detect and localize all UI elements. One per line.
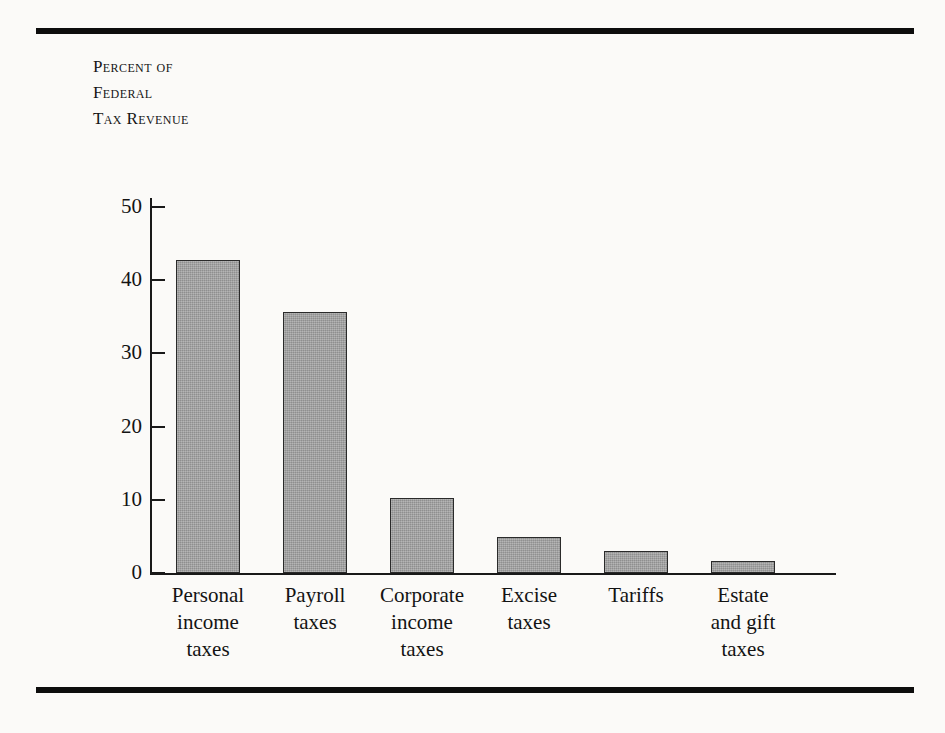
bar-1 xyxy=(283,312,347,573)
y-tick-label-30: 30 xyxy=(100,342,142,363)
y-tick-0 xyxy=(152,572,165,574)
y-tick-40 xyxy=(152,279,165,281)
x-label-line: Estate xyxy=(683,582,803,609)
y-tick-label-50: 50 xyxy=(100,196,142,217)
x-label-line: Personal xyxy=(148,582,268,609)
x-label-line: Excise xyxy=(469,582,589,609)
y-tick-label-40: 40 xyxy=(100,269,142,290)
x-label-line: taxes xyxy=(683,636,803,663)
bar-2 xyxy=(390,498,454,573)
y-tick-20 xyxy=(152,426,165,428)
x-label-line: Tariffs xyxy=(576,582,696,609)
x-label-line: Payroll xyxy=(255,582,375,609)
x-label-1: Payrolltaxes xyxy=(255,582,375,636)
x-label-line: Corporate xyxy=(362,582,482,609)
y-tick-50 xyxy=(152,206,165,208)
x-label-line: taxes xyxy=(148,636,268,663)
y-tick-30 xyxy=(152,352,165,354)
bar-0 xyxy=(176,260,240,573)
bar-4 xyxy=(604,551,668,573)
x-label-line: taxes xyxy=(469,609,589,636)
y-axis-line xyxy=(150,198,152,575)
x-label-line: and gift xyxy=(683,609,803,636)
bar-chart-plot: 01020304050 PersonalincometaxesPayrollta… xyxy=(0,0,945,733)
x-axis-line xyxy=(150,573,836,575)
y-tick-10 xyxy=(152,499,165,501)
x-label-line: taxes xyxy=(255,609,375,636)
bar-3 xyxy=(497,537,561,573)
x-label-3: Excisetaxes xyxy=(469,582,589,636)
figure-page: Percent of Federal Tax Revenue 010203040… xyxy=(0,0,945,733)
y-tick-label-0: 0 xyxy=(100,562,142,583)
y-tick-label-10: 10 xyxy=(100,489,142,510)
x-label-line: income xyxy=(362,609,482,636)
x-label-4: Tariffs xyxy=(576,582,696,609)
x-label-0: Personalincometaxes xyxy=(148,582,268,663)
x-label-2: Corporateincometaxes xyxy=(362,582,482,663)
x-label-line: taxes xyxy=(362,636,482,663)
bar-5 xyxy=(711,561,775,573)
x-label-line: income xyxy=(148,609,268,636)
y-tick-label-20: 20 xyxy=(100,416,142,437)
x-label-5: Estateand gifttaxes xyxy=(683,582,803,663)
